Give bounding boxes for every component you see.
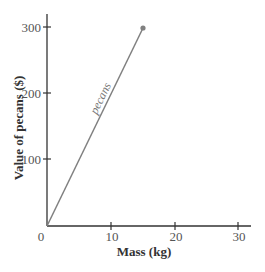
y-axis-label: Value of pecans ($) <box>11 76 26 181</box>
pecans-line <box>47 28 143 226</box>
chart: 300 200 100 0 10 20 30 Mass (kg) Value o… <box>0 0 265 272</box>
y-tick-label-300: 300 <box>22 20 42 35</box>
series-label-pecans: pecans <box>86 80 114 117</box>
origin-label: 0 <box>38 229 45 244</box>
x-axis-label: Mass (kg) <box>117 244 172 259</box>
x-tick-label-20: 20 <box>170 229 183 244</box>
x-tick-label-10: 10 <box>106 229 119 244</box>
x-tick-label-30: 30 <box>233 229 246 244</box>
pecans-endpoint-marker <box>140 25 145 30</box>
